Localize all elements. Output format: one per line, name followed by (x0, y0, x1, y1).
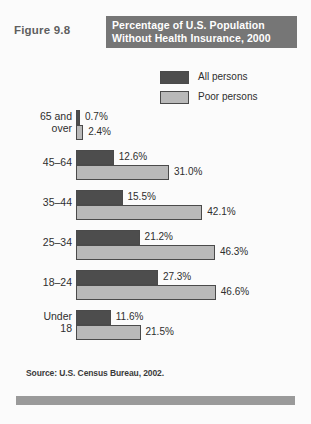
category-label-line-1: Under (43, 310, 72, 322)
chart-group-35-44: 35–4415.5%42.1% (0, 190, 311, 230)
bar-all (76, 110, 80, 125)
bar-value-label: 27.3% (163, 271, 191, 282)
bar-value-label: 21.5% (146, 326, 174, 337)
bar-value-label: 31.0% (174, 166, 202, 177)
bar-value-label: 46.3% (220, 246, 248, 257)
chart-group-65-and-over: 65 andover0.7%2.4% (0, 110, 311, 150)
bar-row: 11.6% (76, 310, 306, 325)
figure-header: Figure 9.8 Percentage of U.S. Population… (14, 16, 297, 48)
bar-poor (76, 165, 169, 180)
source-note: Source: U.S. Census Bureau, 2002. (26, 368, 164, 378)
bar-row: 21.2% (76, 230, 306, 245)
category-label: 25–34 (4, 236, 72, 248)
bar-row: 31.0% (76, 165, 306, 180)
bar-row: 21.5% (76, 325, 306, 340)
category-label-line-2: 18 (4, 322, 72, 334)
bar-value-label: 42.1% (207, 206, 235, 217)
figure-title-line-2: Without Health Insurance, 2000 (112, 32, 297, 45)
bar-value-label: 46.6% (221, 286, 249, 297)
category-label-line-1: 18–24 (43, 276, 72, 288)
bar-value-label: 12.6% (119, 151, 147, 162)
category-label-line-2: over (4, 122, 72, 134)
category-label-line-1: 25–34 (43, 236, 72, 248)
category-label-line-1: 65 and (40, 110, 72, 122)
bar-value-label: 21.2% (145, 231, 173, 242)
bar-all (76, 190, 123, 205)
bottom-accent-bar (16, 396, 295, 405)
bar-row: 2.4% (76, 125, 306, 140)
category-label: 65 andover (4, 110, 72, 134)
bar-row: 12.6% (76, 150, 306, 165)
bar-row: 0.7% (76, 110, 306, 125)
category-label: Under18 (4, 310, 72, 334)
legend-swatch-icon-all-persons (160, 71, 189, 84)
legend-label-poor-persons: Poor persons (198, 91, 257, 102)
chart-group-25-34: 25–3421.2%46.3% (0, 230, 311, 270)
bar-poor (76, 205, 202, 220)
bar-row: 27.3% (76, 270, 306, 285)
chart-group-45-64: 45–6412.6%31.0% (0, 150, 311, 190)
legend-entry-poor-persons: Poor persons (160, 90, 300, 107)
category-label: 35–44 (4, 196, 72, 208)
category-label: 45–64 (4, 156, 72, 168)
category-label-line-1: 45–64 (43, 156, 72, 168)
bar-row: 42.1% (76, 205, 306, 220)
legend-label-all-persons: All persons (198, 71, 247, 82)
legend-swatch-icon-poor-persons (160, 91, 189, 104)
bar-poor (76, 245, 215, 260)
bar-row: 46.3% (76, 245, 306, 260)
bar-value-label: 11.6% (116, 311, 144, 322)
bar-value-label: 0.7% (85, 111, 108, 122)
bar-all (76, 230, 140, 245)
category-label-line-1: 35–44 (43, 196, 72, 208)
bar-row: 15.5% (76, 190, 306, 205)
figure-title-line-1: Percentage of U.S. Population (112, 19, 297, 32)
bar-poor (76, 325, 141, 340)
chart-group-18-24: 18–2427.3%46.6% (0, 270, 311, 310)
bar-value-label: 2.4% (88, 126, 111, 137)
legend-entry-all-persons: All persons (160, 70, 300, 87)
figure-number-label: Figure 9.8 (14, 24, 100, 36)
bar-row: 46.6% (76, 285, 306, 300)
chart-group-under-18: Under1811.6%21.5% (0, 310, 311, 350)
figure-card: Figure 9.8 Percentage of U.S. Population… (0, 0, 311, 424)
bar-poor (76, 125, 83, 140)
category-label: 18–24 (4, 276, 72, 288)
figure-title-bar: Percentage of U.S. Population Without He… (106, 16, 297, 48)
bar-all (76, 270, 158, 285)
chart-plot-area: 65 andover0.7%2.4%45–6412.6%31.0%35–4415… (0, 110, 311, 360)
bar-all (76, 310, 111, 325)
bar-poor (76, 285, 216, 300)
chart-legend: All persons Poor persons (160, 70, 300, 108)
bar-value-label: 15.5% (128, 191, 156, 202)
bar-all (76, 150, 114, 165)
